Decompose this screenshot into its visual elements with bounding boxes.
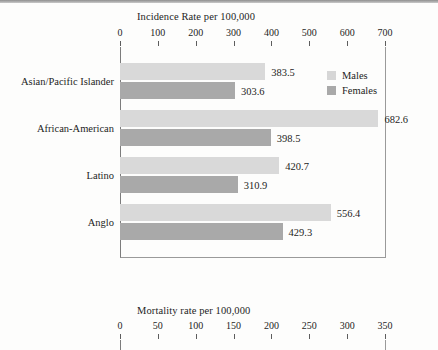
legend-item: Males (327, 68, 377, 83)
x-axis-tick-label: 200 (188, 27, 203, 38)
bar-value-label: 383.5 (271, 66, 295, 77)
category-label: Latino (2, 170, 114, 181)
x-axis-tick (196, 41, 197, 46)
category-label: Anglo (2, 217, 114, 228)
x-axis-tick (271, 334, 272, 339)
x-axis-tick (234, 41, 235, 46)
x-axis-tick (120, 334, 121, 339)
bar-value-label: 420.7 (285, 160, 309, 171)
x-axis-tick-label: 200 (264, 320, 279, 331)
bar-females (120, 223, 283, 240)
x-axis-tick-label: 400 (264, 27, 279, 38)
x-axis-tick-label: 700 (378, 27, 393, 38)
x-axis-tick-label: 300 (226, 27, 241, 38)
x-axis-tick-label: 500 (302, 27, 317, 38)
category-label: African-American (2, 123, 114, 134)
page-top-rule (0, 0, 438, 3)
x-axis-tick (385, 334, 386, 339)
x-axis-tick (309, 41, 310, 46)
bar-value-label: 310.9 (244, 179, 268, 190)
chart-title-mortality: Mortality rate per 100,000 (137, 305, 250, 316)
x-axis-tick (234, 334, 235, 339)
x-axis-tick (120, 41, 121, 46)
x-axis-tick-label: 100 (150, 27, 165, 38)
bar-females (120, 129, 271, 146)
bar-value-label: 682.6 (384, 113, 408, 124)
x-axis-tick (158, 41, 159, 46)
bar-value-label: 556.4 (337, 207, 361, 218)
bar-value-label: 398.5 (277, 132, 301, 143)
x-axis-tick-label: 0 (118, 27, 123, 38)
x-axis-tick (196, 334, 197, 339)
category-label: Asian/Pacific Islander (2, 76, 114, 87)
plot-area-mortality (120, 340, 386, 350)
x-axis-tick (347, 334, 348, 339)
x-axis-tick-label: 150 (226, 320, 241, 331)
legend-swatch-males (327, 71, 336, 80)
x-axis-tick-label: 350 (378, 320, 393, 331)
x-axis-tick (158, 334, 159, 339)
bar-males (120, 157, 279, 174)
x-axis-tick (309, 334, 310, 339)
bar-females (120, 82, 235, 99)
x-axis-tick (385, 41, 386, 46)
bar-males (120, 110, 378, 127)
x-axis-tick-label: 600 (340, 27, 355, 38)
x-axis-tick-label: 0 (118, 320, 123, 331)
bar-males (120, 63, 265, 80)
x-axis-tick (271, 41, 272, 46)
legend-item: Females (327, 83, 377, 98)
chart-legend: MalesFemales (327, 68, 377, 98)
bar-value-label: 303.6 (241, 85, 265, 96)
bar-value-label: 429.3 (289, 226, 313, 237)
legend-item-label: Females (342, 85, 377, 96)
x-axis-tick-label: 250 (302, 320, 317, 331)
x-axis-tick-label: 100 (188, 320, 203, 331)
bar-males (120, 204, 331, 221)
legend-item-label: Males (342, 70, 368, 81)
x-axis-tick-label: 300 (340, 320, 355, 331)
legend-swatch-females (327, 86, 336, 95)
x-axis-tick (347, 41, 348, 46)
x-axis-tick-label: 50 (153, 320, 163, 331)
bar-females (120, 176, 238, 193)
chart-title-incidence: Incidence Rate per 100,000 (137, 11, 255, 22)
